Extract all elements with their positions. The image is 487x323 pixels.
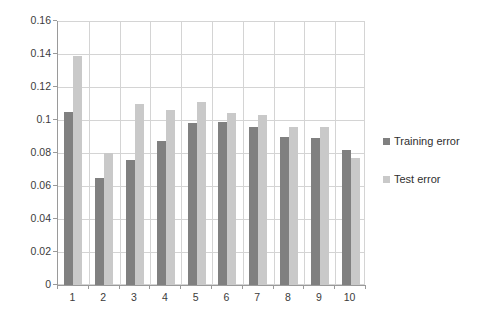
x-tick-label: 2 xyxy=(88,292,118,303)
y-tick-mark xyxy=(53,251,57,252)
y-tick-mark xyxy=(53,53,57,54)
y-tick-label: 0.12 xyxy=(3,81,51,92)
x-tick-label: 10 xyxy=(335,292,365,303)
x-tick-label: 1 xyxy=(57,292,87,303)
y-tick-mark xyxy=(53,20,57,21)
y-tick-mark xyxy=(53,152,57,153)
bar-training-1 xyxy=(64,112,73,285)
bar-test-5 xyxy=(197,102,206,285)
x-tick-mark xyxy=(273,285,274,289)
x-tick-mark xyxy=(57,285,58,289)
x-tick-label: 8 xyxy=(273,292,303,303)
legend-entry-test[interactable]: Test error xyxy=(383,172,487,186)
x-tick-mark xyxy=(303,285,304,289)
bar-test-9 xyxy=(320,127,329,285)
x-tick-mark xyxy=(119,285,120,289)
y-tick-mark xyxy=(53,119,57,120)
x-tick-label: 7 xyxy=(242,292,272,303)
y-tick-mark xyxy=(53,185,57,186)
y-tick-label: 0.08 xyxy=(3,147,51,158)
x-tick-mark xyxy=(149,285,150,289)
y-tick-label: 0.02 xyxy=(3,246,51,257)
bar-training-8 xyxy=(280,137,289,286)
bar-chart: 00.020.040.060.080.10.120.140.16 1234567… xyxy=(0,0,487,323)
x-tick-mark xyxy=(242,285,243,289)
bar-test-6 xyxy=(227,113,236,285)
legend-swatch-training-icon xyxy=(383,138,390,145)
bar-training-7 xyxy=(249,127,258,285)
x-tick-mark xyxy=(334,285,335,289)
x-tick-label: 3 xyxy=(119,292,149,303)
x-tick-label: 6 xyxy=(211,292,241,303)
y-tick-label: 0.16 xyxy=(3,15,51,26)
bars-layer xyxy=(58,21,364,285)
y-tick-label: 0.1 xyxy=(3,114,51,125)
bar-training-10 xyxy=(342,150,351,285)
bar-test-3 xyxy=(135,104,144,286)
legend-entry-training[interactable]: Training error xyxy=(383,134,487,148)
y-tick-mark xyxy=(53,284,57,285)
y-tick-label: 0.14 xyxy=(3,48,51,59)
x-tick-mark xyxy=(180,285,181,289)
bar-training-2 xyxy=(95,178,104,285)
y-tick-mark xyxy=(53,86,57,87)
bar-test-4 xyxy=(166,110,175,285)
bar-training-6 xyxy=(218,122,227,285)
bar-test-1 xyxy=(73,56,82,285)
bar-test-2 xyxy=(104,153,113,285)
bar-training-9 xyxy=(311,138,320,285)
x-tick-mark xyxy=(365,285,366,289)
chart-legend: Training error Test error xyxy=(383,134,487,210)
x-tick-label: 9 xyxy=(304,292,334,303)
bar-test-10 xyxy=(351,158,360,285)
bar-training-5 xyxy=(188,123,197,285)
bar-training-3 xyxy=(126,160,135,285)
bar-training-4 xyxy=(157,141,166,285)
x-tick-mark xyxy=(88,285,89,289)
y-tick-label: 0.04 xyxy=(3,213,51,224)
y-tick-label: 0.06 xyxy=(3,180,51,191)
x-tick-label: 4 xyxy=(150,292,180,303)
y-tick-label: 0 xyxy=(3,279,51,290)
y-tick-mark xyxy=(53,218,57,219)
legend-label-test: Test error xyxy=(394,174,440,185)
bar-test-7 xyxy=(258,115,267,285)
x-tick-label: 5 xyxy=(181,292,211,303)
legend-label-training: Training error xyxy=(394,136,460,147)
y-axis-labels: 00.020.040.060.080.10.120.140.16 xyxy=(0,0,51,323)
bar-test-8 xyxy=(289,127,298,285)
legend-swatch-test-icon xyxy=(383,176,390,183)
x-tick-mark xyxy=(211,285,212,289)
